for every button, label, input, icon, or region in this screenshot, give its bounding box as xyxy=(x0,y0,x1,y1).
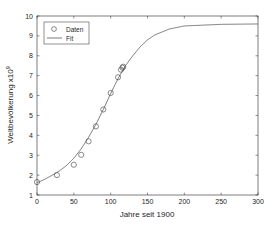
data-point-marker xyxy=(54,173,59,178)
y-axis-label-exponent: 9 xyxy=(5,66,11,69)
y-axis-label: Weltbevölkerung x109 xyxy=(5,66,15,144)
data-point-marker xyxy=(71,162,76,167)
y-tick-label: 7 xyxy=(29,72,33,79)
y-tick-label: 8 xyxy=(29,52,33,59)
y-tick-label: 9 xyxy=(29,32,33,39)
x-tick-label: 300 xyxy=(252,198,264,205)
y-axis-label-text: Weltbevölkerung x10 xyxy=(6,69,15,144)
y-tick-label: 4 xyxy=(29,132,33,139)
y-tick-label: 10 xyxy=(25,13,33,20)
x-tick-label: 50 xyxy=(70,198,78,205)
x-tick-label: 250 xyxy=(215,198,227,205)
y-tick-label: 3 xyxy=(29,152,33,159)
data-point-marker xyxy=(79,152,84,157)
x-tick-label: 150 xyxy=(142,198,154,205)
chart-svg: 05010015020025030012345678910 DatenFit J… xyxy=(0,0,277,227)
x-tick-label: 100 xyxy=(105,198,117,205)
x-tick-label: 0 xyxy=(35,198,39,205)
y-tick-label: 1 xyxy=(29,192,33,199)
legend-label: Daten xyxy=(66,26,84,33)
y-tick-label: 2 xyxy=(29,172,33,179)
y-tick-label: 5 xyxy=(29,112,33,119)
chart-container: 05010015020025030012345678910 DatenFit J… xyxy=(0,0,277,227)
plot-area xyxy=(34,24,258,185)
x-axis-label: Jahre seit 1900 xyxy=(120,210,175,219)
x-tick-label: 200 xyxy=(178,198,190,205)
data-point-marker xyxy=(86,139,91,144)
legend-label: Fit xyxy=(66,35,73,42)
fit-line xyxy=(37,24,258,183)
legend: DatenFit xyxy=(44,22,89,44)
y-tick-label: 6 xyxy=(29,92,33,99)
